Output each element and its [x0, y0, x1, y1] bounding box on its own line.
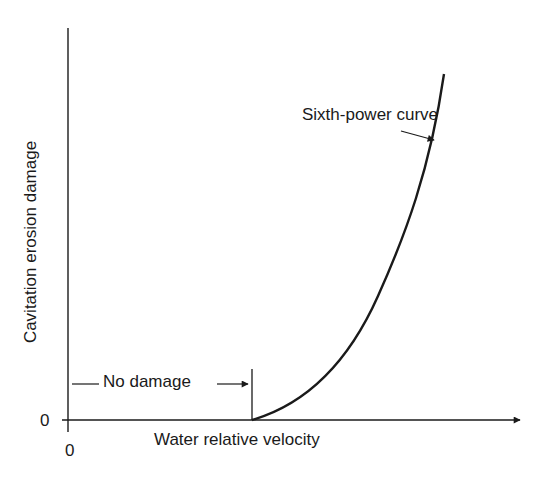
- x-origin-tick-label: 0: [65, 442, 74, 459]
- curve-annotation: Sixth-power curve: [302, 106, 438, 123]
- curve-label-arrow: [401, 131, 434, 140]
- sixth-power-curve: [252, 74, 444, 420]
- y-origin-tick-label: 0: [40, 412, 49, 429]
- y-axis-label: Cavitation erosion damage: [22, 141, 39, 343]
- x-axis-label: Water relative velocity: [154, 431, 320, 448]
- no-damage-annotation: No damage: [103, 373, 191, 390]
- diagram-canvas: [0, 0, 543, 482]
